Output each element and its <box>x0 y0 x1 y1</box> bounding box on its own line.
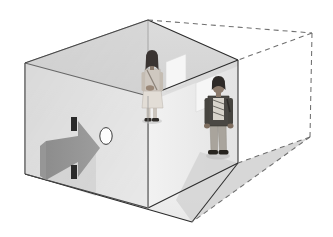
dark-bar-bottom <box>71 165 77 179</box>
oval-marker <box>100 128 112 145</box>
room-perspective-illustration <box>0 0 333 237</box>
arrow-cast-shadow <box>40 141 46 180</box>
dark-bar-top <box>71 117 77 131</box>
diagram-canvas: Perspective room diagram with two childr… <box>0 0 333 237</box>
